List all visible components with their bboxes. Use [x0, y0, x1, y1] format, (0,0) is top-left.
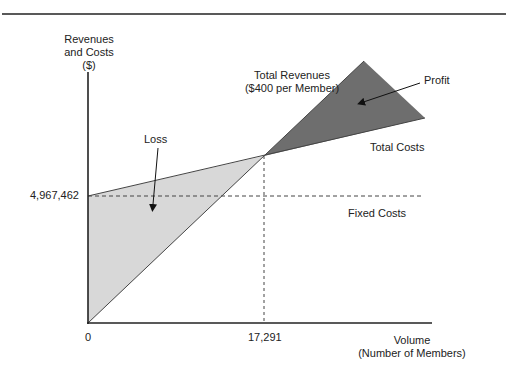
y-axis-label-line2: and Costs: [54, 46, 124, 59]
total-revenues-label: Total Revenues ($400 per Member): [232, 69, 352, 95]
y-axis-label: Revenues and Costs ($): [54, 33, 124, 72]
total-costs-line: [88, 118, 425, 196]
loss-label: Loss: [144, 133, 167, 146]
fixed-costs-label: Fixed Costs: [348, 207, 406, 220]
x-tick-break-even: 17,291: [248, 331, 282, 344]
y-axis-label-line1: Revenues: [54, 33, 124, 46]
x-axis-label-line1: Volume: [342, 334, 482, 347]
x-axis-label-line2: (Number of Members): [342, 347, 482, 360]
profit-label: Profit: [424, 74, 450, 87]
total-revenues-label-line2: ($400 per Member): [232, 82, 352, 95]
y-tick-fixed-cost: 4,967,462: [30, 189, 79, 202]
x-tick-origin: 0: [85, 331, 91, 344]
x-axis-label: Volume (Number of Members): [342, 334, 482, 360]
total-revenues-label-line1: Total Revenues: [232, 69, 352, 82]
total-costs-label: Total Costs: [370, 141, 424, 154]
y-axis-label-line3: ($): [54, 59, 124, 72]
